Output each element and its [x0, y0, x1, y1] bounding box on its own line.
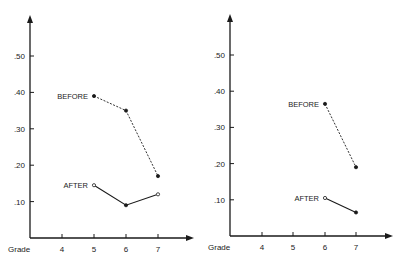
- data-point: [92, 94, 95, 97]
- data-point: [156, 175, 159, 178]
- series-label-after: AFTER: [63, 181, 88, 190]
- series-label-after: AFTER: [294, 194, 319, 203]
- data-point: [124, 204, 127, 207]
- data-point: [124, 109, 127, 112]
- x-tick-label: 7: [354, 243, 359, 252]
- x-tick-label: 5: [291, 243, 296, 252]
- x-axis-title: Grade: [8, 245, 31, 254]
- y-tick-label: .40: [14, 88, 26, 97]
- left-chart: .10.20.30.40.504567GradeBEFOREAFTER: [8, 15, 194, 254]
- x-tick-label: 5: [92, 245, 97, 254]
- y-axis-arrow-icon: [227, 14, 233, 22]
- data-point: [323, 102, 326, 105]
- x-tick-label: 6: [124, 245, 129, 254]
- data-point: [354, 166, 357, 169]
- data-point: [92, 184, 95, 187]
- y-axis-arrow-icon: [27, 15, 33, 23]
- right-chart: .10.20.30.40.504567GradeBEFOREAFTER: [208, 14, 393, 252]
- series-line-after: [94, 185, 158, 205]
- chart-canvas: .10.20.30.40.504567GradeBEFOREAFTER .10.…: [0, 0, 403, 263]
- x-tick-label: 4: [260, 243, 265, 252]
- y-tick-label: .40: [214, 87, 226, 96]
- series-line-after: [325, 198, 356, 212]
- series-line-before: [94, 96, 158, 176]
- series-line-before: [325, 104, 356, 167]
- y-tick-label: .50: [214, 51, 226, 60]
- y-tick-label: .50: [14, 52, 26, 61]
- x-tick-label: 6: [323, 243, 328, 252]
- x-tick-label: 7: [156, 245, 161, 254]
- data-point: [323, 196, 326, 199]
- series-label-before: BEFORE: [57, 92, 88, 101]
- y-tick-label: .20: [214, 160, 226, 169]
- x-axis-arrow-icon: [385, 233, 393, 239]
- data-point: [156, 193, 159, 196]
- data-point: [354, 211, 357, 214]
- x-axis-title: Grade: [208, 243, 231, 252]
- y-tick-label: .30: [14, 125, 26, 134]
- y-tick-label: .20: [14, 161, 26, 170]
- x-tick-label: 4: [60, 245, 65, 254]
- y-tick-label: .10: [14, 198, 26, 207]
- series-label-before: BEFORE: [288, 100, 319, 109]
- y-tick-label: .30: [214, 123, 226, 132]
- x-axis-arrow-icon: [186, 235, 194, 241]
- y-tick-label: .10: [214, 196, 226, 205]
